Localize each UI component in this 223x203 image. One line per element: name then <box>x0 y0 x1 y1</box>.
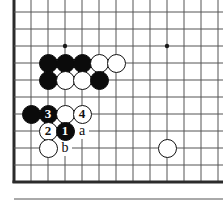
move-number-label: 1 <box>62 124 69 137</box>
point-label-b: b <box>58 140 72 156</box>
white-stone-d5 <box>56 71 75 90</box>
white-stone-d7 <box>56 105 75 124</box>
white-stone-j9 <box>158 139 177 158</box>
move-1-black: 1 <box>56 122 75 141</box>
white-stone-g4 <box>107 54 126 73</box>
black-stone-d4 <box>56 54 75 73</box>
move-3-black: 3 <box>39 105 58 124</box>
white-stone-f4 <box>90 54 109 73</box>
move-4-white: 4 <box>73 105 92 124</box>
star-point-right <box>165 44 169 48</box>
black-stone-c5 <box>39 71 58 90</box>
star-point-left <box>63 44 67 48</box>
white-stone-e5 <box>73 71 92 90</box>
black-stone-e4 <box>73 54 92 73</box>
move-number-label: 4 <box>79 107 86 120</box>
board-grid <box>0 0 223 203</box>
white-stone-c9 <box>39 139 58 158</box>
move-number-label: 2 <box>45 124 52 137</box>
black-stone-c4 <box>39 54 58 73</box>
point-label-a: a <box>75 123 89 139</box>
go-board-diagram: ab3421 <box>0 0 223 203</box>
black-stone-f5 <box>90 71 109 90</box>
move-2-white: 2 <box>39 122 58 141</box>
move-number-label: 3 <box>45 107 52 120</box>
black-stone-b7 <box>22 105 41 124</box>
